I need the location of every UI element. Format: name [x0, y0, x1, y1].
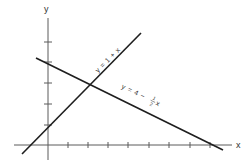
y-axis-label: y [44, 4, 49, 14]
line-1-label: y = 1 + x [94, 46, 122, 74]
coordinate-graph: x y y = 1 + x y = 4 − 1 2 x [0, 0, 252, 166]
line-2-label-frac-den: 2 [149, 101, 154, 108]
line-2-label-suffix: x [155, 99, 162, 107]
line-2-label-prefix: y = 4 − [120, 83, 147, 101]
line-y-equals-4-minus-half-x [36, 58, 223, 150]
line-2-label: y = 4 − 1 2 x [119, 80, 162, 110]
x-axis-label: x [236, 140, 241, 150]
line-y-equals-1-plus-x [22, 33, 141, 154]
